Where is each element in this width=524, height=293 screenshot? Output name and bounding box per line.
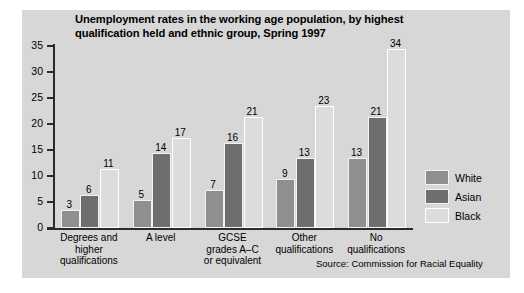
bar-value-label: 6 xyxy=(77,184,101,195)
bar-value-label: 23 xyxy=(312,95,336,106)
legend-item-white: White xyxy=(425,168,482,187)
plot-area: 3611514177162191323132134 xyxy=(53,44,412,228)
bar-value-label: 13 xyxy=(292,147,316,158)
bar-value-label: 13 xyxy=(345,147,369,158)
x-axis-category-label: Degrees andhigherqualifications xyxy=(53,232,125,267)
legend-label-black: Black xyxy=(455,210,481,222)
bar-white-2 xyxy=(205,190,224,228)
bar-black-1 xyxy=(172,138,191,228)
y-axis-tick-label: 25 xyxy=(17,91,43,103)
x-axis-category-label: Noqualifications xyxy=(340,232,412,255)
y-axis-tick-label: 0 xyxy=(17,221,43,233)
bar-black-2 xyxy=(244,117,263,228)
bar-black-4 xyxy=(387,49,406,228)
bar-value-label: 11 xyxy=(96,158,120,169)
bar-asian-1 xyxy=(152,153,171,228)
source-note: Source: Commission for Racial Equality xyxy=(316,258,483,269)
y-axis-tick-label: 35 xyxy=(17,39,43,51)
bar-value-label: 21 xyxy=(240,106,264,117)
x-axis-category-label: GCSEgrades A–Cor equivalent xyxy=(197,232,269,267)
x-axis-category-label: A level xyxy=(125,232,197,244)
legend-item-black: Black xyxy=(425,206,482,225)
bar-white-0 xyxy=(61,210,80,228)
legend: White Asian Black xyxy=(425,168,482,225)
y-axis-tick-label: 10 xyxy=(17,169,43,181)
bar-asian-0 xyxy=(80,195,99,228)
bar-value-label: 9 xyxy=(273,168,297,179)
bar-value-label: 17 xyxy=(168,127,192,138)
x-axis-line xyxy=(47,228,413,230)
bar-value-label: 16 xyxy=(221,132,245,143)
legend-item-asian: Asian xyxy=(425,187,482,206)
y-axis-tick-label: 15 xyxy=(17,143,43,155)
legend-swatch-asian-icon xyxy=(425,189,449,204)
bar-asian-2 xyxy=(224,143,243,228)
legend-swatch-black-icon xyxy=(425,208,449,223)
bar-white-1 xyxy=(133,200,152,228)
bar-black-0 xyxy=(100,169,119,228)
bar-value-label: 5 xyxy=(129,189,153,200)
legend-label-asian: Asian xyxy=(455,191,481,203)
chart-title-line2: qualification held and ethnic group, Spr… xyxy=(75,27,326,39)
chart-title: Unemployment rates in the working age po… xyxy=(75,12,445,40)
bar-asian-4 xyxy=(368,117,387,228)
bar-value-label: 7 xyxy=(201,179,225,190)
bar-value-label: 34 xyxy=(384,38,408,49)
bar-value-label: 14 xyxy=(149,142,173,153)
bar-white-4 xyxy=(348,158,367,228)
chart-figure: Unemployment rates in the working age po… xyxy=(0,0,524,293)
y-axis-tick-label: 30 xyxy=(17,65,43,77)
bar-black-3 xyxy=(315,106,334,228)
y-axis-tick-label: 5 xyxy=(17,195,43,207)
x-axis-category-label: Otherqualifications xyxy=(268,232,340,255)
bar-value-label: 3 xyxy=(57,199,81,210)
legend-swatch-white-icon xyxy=(425,170,449,185)
chart-title-line1: Unemployment rates in the working age po… xyxy=(75,13,403,25)
bar-white-3 xyxy=(276,179,295,228)
bar-value-label: 21 xyxy=(364,106,388,117)
legend-label-white: White xyxy=(455,172,482,184)
bar-asian-3 xyxy=(296,158,315,228)
y-axis-tick-label: 20 xyxy=(17,117,43,129)
